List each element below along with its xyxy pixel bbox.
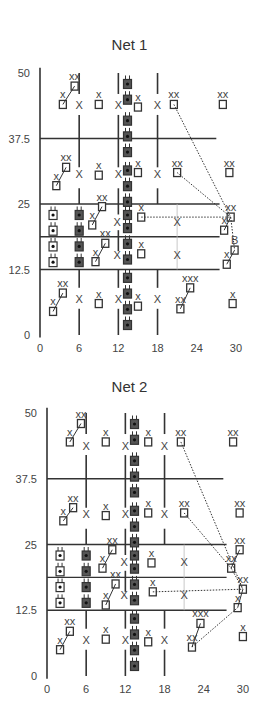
cross-marker: X — [83, 508, 91, 520]
x-tick-label: 0 — [44, 683, 50, 695]
x-tick-label: 30 — [230, 342, 242, 354]
trap-label: xx — [75, 408, 87, 420]
device-dot — [126, 169, 129, 172]
cross-marker: X — [113, 249, 121, 261]
device-dot — [126, 185, 129, 188]
trap-square — [145, 438, 152, 446]
trap-square — [138, 250, 145, 258]
trap-square — [102, 512, 109, 520]
trap-label: xx — [234, 497, 246, 509]
y-tick-label: 37.5 — [9, 133, 30, 145]
trap-label: B — [231, 234, 238, 246]
x-tick-label: 18 — [158, 683, 170, 695]
y-tick-label: 12.5 — [16, 604, 37, 616]
trap-label: x — [224, 248, 230, 260]
device-dot — [133, 567, 136, 570]
trap-square — [219, 100, 226, 108]
trap-label: x — [135, 91, 141, 103]
cross-marker: X — [83, 634, 91, 646]
trap-label: x — [149, 547, 155, 559]
cross-marker: X — [76, 168, 84, 180]
y-tick-label: 50 — [25, 407, 37, 419]
trap-square — [134, 169, 141, 177]
trap-label: x — [135, 157, 141, 169]
trap-square — [226, 169, 233, 177]
trap-label: x — [89, 209, 95, 221]
cross-marker: X — [154, 99, 162, 111]
trap-label: x — [145, 626, 151, 638]
cross-marker: X — [120, 589, 128, 601]
trap-square — [59, 100, 66, 108]
device-dot — [133, 541, 136, 544]
trap-square — [148, 559, 155, 567]
panel-2-plot: 5037.52512.500612182430XXXXXXXXXXXXXxxxx… — [16, 407, 249, 695]
trap-square — [102, 438, 109, 446]
trap-square — [145, 509, 152, 517]
device-dot — [85, 554, 88, 557]
device-dot — [58, 585, 61, 588]
x-tick-label: 0 — [37, 342, 43, 354]
trap-square — [95, 171, 102, 179]
device-dot — [126, 151, 129, 154]
device-dot — [133, 459, 136, 462]
cross-marker: X — [122, 440, 130, 452]
trap-label: xx — [61, 151, 73, 163]
trap-label: xx — [168, 88, 180, 100]
movement-path — [153, 589, 243, 592]
device-dot — [133, 422, 136, 425]
trap-label: xx — [217, 88, 229, 100]
trap-label: x — [103, 426, 109, 438]
device-dot — [126, 135, 129, 138]
device-dot — [78, 213, 81, 216]
trap-label: xx — [225, 201, 237, 213]
trap-label: x — [145, 497, 151, 509]
trap-label: xxx — [182, 272, 199, 284]
panel-1-plot: 5037.52512.500612182430XXXXXXXXXXXXXxxxx… — [9, 67, 242, 354]
x-tick-label: 18 — [151, 342, 163, 354]
device-dot — [126, 292, 129, 295]
trap-label: x — [240, 621, 246, 633]
trap-label: x — [57, 634, 63, 646]
device-dot — [126, 82, 129, 85]
trap-label: xx — [234, 534, 246, 546]
trap-label: xx — [100, 227, 112, 239]
y-tick-label: 25 — [25, 539, 37, 551]
trap-label: x — [138, 201, 144, 213]
cross-marker: X — [76, 293, 84, 305]
movement-path — [181, 442, 243, 589]
trap-square — [239, 633, 246, 641]
device-dot — [126, 242, 129, 245]
trap-label: x — [67, 426, 73, 438]
y-tick-label: 37.5 — [16, 473, 37, 485]
trap-label: x — [93, 246, 99, 258]
device-dot — [133, 649, 136, 652]
x-tick-label: 12 — [119, 683, 131, 695]
x-tick-label: 6 — [83, 683, 89, 695]
device-dot — [133, 664, 136, 667]
device-dot — [126, 213, 129, 216]
trap-label: x — [61, 505, 67, 517]
trap-label: x — [103, 500, 109, 512]
cross-marker: X — [154, 168, 162, 180]
device-dot — [78, 229, 81, 232]
trap-square — [95, 100, 102, 108]
device-dot — [133, 491, 136, 494]
movement-path — [184, 513, 231, 568]
y-tick-label: 12.5 — [9, 264, 30, 276]
device-dot — [133, 475, 136, 478]
y-tick-label: 0 — [24, 329, 30, 341]
device-dot — [85, 601, 88, 604]
trap-label: xxx — [192, 607, 209, 619]
trap-label: xx — [228, 426, 240, 438]
device-dot — [133, 554, 136, 557]
device-dot — [51, 213, 54, 216]
device-dot — [126, 308, 129, 311]
y-tick-label: 25 — [18, 198, 30, 210]
trap-label: xx — [68, 492, 80, 504]
device-dot — [126, 98, 129, 101]
trap-label: xx — [110, 568, 122, 580]
cross-marker: X — [120, 556, 128, 568]
cross-marker: X — [76, 99, 84, 111]
trap-label: xx — [64, 615, 76, 627]
trap-label: xx — [97, 191, 109, 203]
